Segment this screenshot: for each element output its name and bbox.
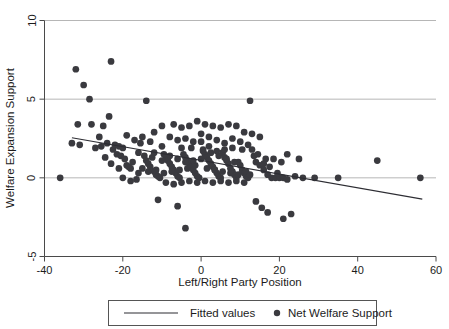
data-point (217, 124, 224, 131)
data-point (247, 97, 254, 104)
data-point (186, 178, 193, 185)
x-tick-label--20: -20 (115, 264, 131, 276)
data-point (159, 157, 166, 164)
data-point (178, 124, 185, 131)
data-point (88, 121, 95, 128)
y-tick-label-0: 0 (26, 175, 38, 181)
data-point (247, 171, 254, 178)
data-point (174, 137, 181, 144)
data-point (69, 140, 76, 147)
data-point (335, 174, 342, 181)
data-point (223, 156, 230, 163)
data-point (110, 146, 117, 153)
data-point (155, 197, 162, 204)
data-point (231, 159, 238, 166)
scatter-plot: -50510 -40-200204060 Left/Right Party Po… (0, 0, 449, 329)
data-point (209, 123, 216, 130)
data-point (266, 163, 273, 170)
y-tick-label-5: 5 (26, 96, 38, 102)
data-point (278, 159, 285, 166)
data-point (137, 140, 144, 147)
data-point (119, 174, 126, 181)
data-point (102, 154, 109, 161)
y-axis-label: Welfare Expansion Support (4, 67, 16, 208)
data-point (200, 148, 207, 155)
data-point (182, 225, 189, 232)
data-point (206, 143, 213, 150)
data-point (98, 143, 105, 150)
data-point (100, 123, 107, 130)
data-point (108, 160, 115, 167)
data-point (123, 132, 130, 139)
data-point (159, 123, 166, 130)
data-point (176, 167, 183, 174)
data-point (116, 165, 123, 172)
y-tick-label--5: -5 (26, 252, 38, 262)
data-point (217, 178, 224, 185)
data-point (213, 148, 220, 155)
data-point (163, 179, 170, 186)
data-point (255, 151, 262, 158)
data-point (211, 167, 218, 174)
data-point (270, 156, 277, 163)
data-point (225, 121, 232, 128)
data-point (206, 134, 213, 141)
data-point (188, 145, 195, 152)
data-point (229, 145, 236, 152)
data-point (178, 179, 185, 186)
data-point (190, 138, 197, 145)
data-point (258, 204, 265, 211)
data-point (249, 146, 256, 153)
y-tick-label-10: 10 (26, 14, 38, 26)
data-point (121, 156, 128, 163)
data-point (221, 146, 228, 153)
data-point (198, 138, 205, 145)
data-point (184, 165, 191, 172)
data-point (182, 135, 189, 142)
data-point (241, 129, 248, 136)
x-tick-label-20: 20 (273, 264, 285, 276)
data-point (235, 171, 242, 178)
x-tick-label--40: -40 (37, 264, 53, 276)
data-point (166, 134, 173, 141)
data-point (72, 66, 79, 73)
legend-circle-swatch (274, 310, 280, 316)
data-point (233, 178, 240, 185)
data-point (229, 135, 236, 142)
data-point (92, 145, 99, 152)
data-point (221, 140, 228, 147)
data-point (147, 138, 154, 145)
data-point (74, 121, 81, 128)
data-point (284, 176, 291, 183)
data-point (151, 129, 158, 136)
data-point (249, 130, 256, 137)
data-point (170, 121, 177, 128)
data-point (284, 151, 291, 158)
data-point (76, 141, 83, 148)
data-point (280, 215, 287, 222)
data-point (127, 178, 134, 185)
data-point (264, 209, 271, 216)
data-point (202, 121, 209, 128)
data-point (296, 156, 303, 163)
x-axis-label: Left/Right Party Position (178, 276, 301, 288)
data-point (204, 165, 211, 172)
data-point (239, 146, 246, 153)
data-point (202, 178, 209, 185)
data-point (119, 145, 126, 152)
data-point (178, 145, 185, 152)
x-tick-label-0: 0 (198, 264, 204, 276)
data-point (145, 168, 152, 175)
data-point (253, 198, 260, 205)
data-point (129, 159, 136, 166)
x-tick-label-40: 40 (352, 264, 364, 276)
data-point (186, 123, 193, 130)
data-point (57, 174, 64, 181)
data-point (198, 130, 205, 137)
data-point (227, 170, 234, 177)
data-point (80, 82, 87, 89)
data-point (174, 203, 181, 210)
chart-figure: -50510 -40-200204060 Left/Right Party Po… (0, 0, 449, 329)
data-point (139, 134, 146, 141)
legend: Fitted values Net Welfare Support (109, 301, 393, 326)
